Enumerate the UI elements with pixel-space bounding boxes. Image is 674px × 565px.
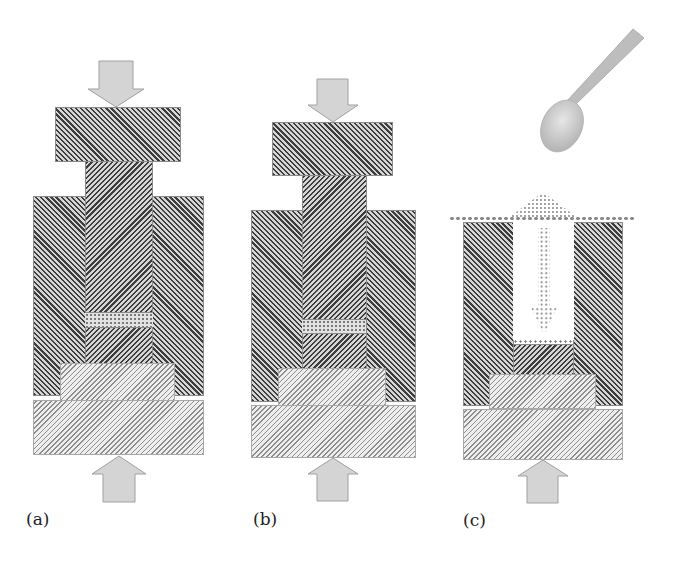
lower-block (60, 363, 175, 401)
lower-block (489, 374, 596, 409)
lower-punch (513, 344, 574, 376)
lower-punch (302, 333, 367, 369)
spoon-icon (538, 26, 648, 176)
panel-label-a: (a) (26, 509, 49, 529)
up-arrow-icon (516, 459, 570, 504)
up-arrow-icon (90, 455, 148, 503)
falling-powder-arrow (526, 226, 562, 341)
down-arrow-icon (306, 78, 360, 123)
lower-punch (85, 327, 153, 364)
upper-platen (272, 122, 393, 176)
upper-punch (302, 175, 367, 320)
base-platen (251, 405, 416, 458)
compacted-powder (302, 320, 366, 334)
up-arrow-icon (306, 457, 360, 502)
base-platen (463, 409, 623, 460)
down-arrow-icon (87, 60, 147, 108)
upper-platen (55, 107, 181, 162)
compacted-powder (85, 313, 153, 327)
base-platen (33, 400, 204, 455)
upper-punch (85, 161, 153, 313)
panel-label-b: (b) (253, 509, 277, 529)
lower-block (278, 368, 386, 406)
panel-label-c: (c) (463, 510, 486, 530)
